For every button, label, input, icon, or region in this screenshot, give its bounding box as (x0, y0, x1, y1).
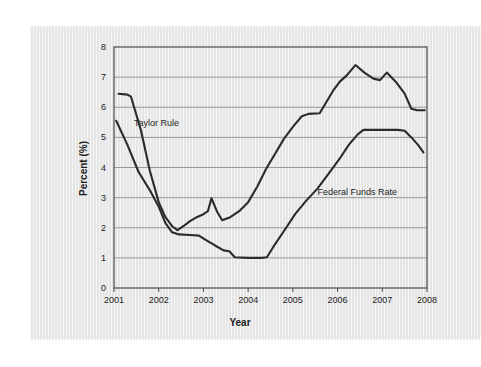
y-axis-title: Percent (%) (78, 141, 89, 196)
x-tick-label: 2005 (276, 295, 310, 305)
y-tick-label: 3 (92, 193, 106, 203)
y-tick-label: 5 (92, 132, 106, 142)
x-tick-label: 2006 (321, 295, 355, 305)
x-tick-label: 2003 (186, 295, 220, 305)
y-tick-label: 1 (92, 253, 106, 263)
y-tick-label: 6 (92, 102, 106, 112)
x-tick-label: 2001 (97, 295, 131, 305)
figure-root: Percent (%) Year 01234567820012002200320… (0, 0, 481, 367)
y-tick-label: 4 (92, 163, 106, 173)
x-tick-label: 2002 (142, 295, 176, 305)
y-tick-label: 8 (92, 42, 106, 52)
y-tick-label: 7 (92, 72, 106, 82)
series-label-1: Taylor Rule (134, 118, 179, 128)
series-label-2: Federal Funds Rate (317, 187, 397, 197)
y-tick-label: 0 (92, 283, 106, 293)
x-tick-label: 2004 (231, 295, 265, 305)
x-axis-title: Year (210, 317, 270, 328)
x-tick-label: 2008 (410, 295, 444, 305)
x-tick-label: 2007 (365, 295, 399, 305)
y-tick-label: 2 (92, 223, 106, 233)
